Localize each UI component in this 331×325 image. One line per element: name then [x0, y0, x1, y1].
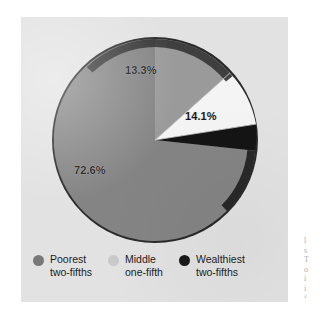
- pie-chart: 13.3% 14.1% 72.6%: [21, 17, 288, 249]
- margin-text-line-3: T: [304, 255, 331, 265]
- margin-text-line-6: i: [304, 284, 331, 294]
- margin-text-line-5: i: [304, 274, 331, 284]
- legend-label-wealthiest: Wealthiest two-fifths: [196, 253, 245, 278]
- margin-text-line-7: f: [304, 294, 331, 298]
- legend-item-poorest-two-fifths[interactable]: Poorest two-fifths: [33, 253, 92, 278]
- pie-label-middle-one-fifth: 13.3%: [125, 64, 157, 76]
- pie-label-poorest-two-fifths: 72.6%: [74, 164, 106, 176]
- legend-item-wealthiest-two-fifths[interactable]: Wealthiest two-fifths: [179, 253, 245, 278]
- legend-label-middle-line2: one-fifth: [125, 266, 163, 279]
- legend-swatch-icon-wealthiest: [179, 255, 190, 266]
- legend-swatch-icon-poorest: [33, 255, 44, 266]
- legend-swatch-icon-middle: [108, 255, 119, 266]
- margin-text-line-4: o: [304, 265, 331, 275]
- pie-label-wealthiest-two-fifths: 14.1%: [185, 110, 217, 122]
- pie-chart-svg: [21, 17, 288, 249]
- margin-text-line-1: l: [304, 236, 331, 246]
- legend-label-middle: Middle one-fifth: [125, 253, 163, 278]
- chart-panel: 13.3% 14.1% 72.6% Poorest two-fifths Mid…: [21, 17, 288, 302]
- chart-legend: Poorest two-fifths Middle one-fifth Weal…: [21, 253, 288, 299]
- legend-label-wealthiest-line2: two-fifths: [196, 266, 245, 279]
- legend-label-wealthiest-line1: Wealthiest: [196, 253, 245, 266]
- legend-item-middle-one-fifth[interactable]: Middle one-fifth: [108, 253, 163, 278]
- margin-text-line-2: s: [304, 246, 331, 256]
- legend-label-poorest: Poorest two-fifths: [50, 253, 92, 278]
- margin-body-text: l s T o i i f: [304, 236, 331, 298]
- legend-label-poorest-line2: two-fifths: [50, 266, 92, 279]
- legend-label-poorest-line1: Poorest: [50, 253, 92, 266]
- legend-label-middle-line1: Middle: [125, 253, 163, 266]
